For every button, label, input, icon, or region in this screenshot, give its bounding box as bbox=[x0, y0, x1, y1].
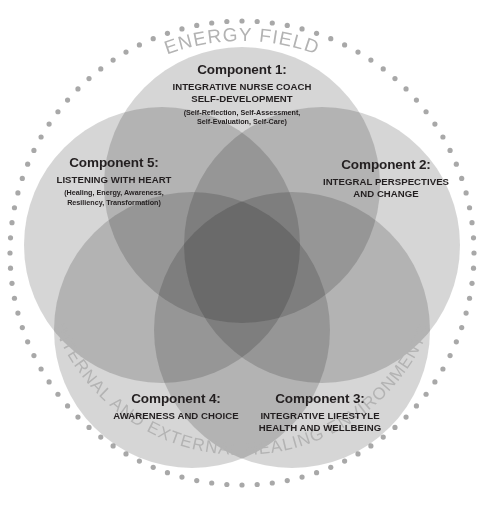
component-2-label: Component 2: INTEGRAL PERSPECTIVES AND C… bbox=[296, 157, 476, 200]
ring-dot bbox=[98, 66, 103, 71]
ring-dot bbox=[469, 220, 474, 225]
ring-dot bbox=[414, 403, 419, 408]
ring-dot bbox=[447, 353, 452, 358]
ring-dot bbox=[9, 220, 14, 225]
ring-dot bbox=[165, 470, 170, 475]
component-3-subtitle-line-1: INTEGRATIVE LIFESTYLE bbox=[240, 410, 400, 421]
ring-dot bbox=[432, 379, 437, 384]
ring-dot bbox=[209, 480, 214, 485]
ring-dot bbox=[328, 36, 333, 41]
ring-dot bbox=[151, 465, 156, 470]
ring-dot bbox=[179, 474, 184, 479]
ring-dot bbox=[314, 31, 319, 36]
component-1-label: Component 1: INTEGRATIVE NURSE COACH SEL… bbox=[119, 62, 365, 126]
ring-dot bbox=[299, 26, 304, 31]
ring-dot bbox=[38, 366, 43, 371]
component-5-detail-line-1: (Healing, Energy, Awareness, bbox=[28, 188, 200, 197]
ring-dot bbox=[392, 76, 397, 81]
ring-dot bbox=[75, 86, 80, 91]
ring-dot bbox=[47, 379, 52, 384]
ring-dot bbox=[86, 425, 91, 430]
ring-dot bbox=[403, 86, 408, 91]
ring-dot bbox=[111, 58, 116, 63]
component-3-title: Component 3: bbox=[240, 391, 400, 407]
ring-dot bbox=[137, 458, 142, 463]
ring-dot bbox=[381, 66, 386, 71]
ring-dot bbox=[123, 49, 128, 54]
ring-dot bbox=[151, 36, 156, 41]
ring-dot bbox=[270, 480, 275, 485]
component-5-title: Component 5: bbox=[28, 155, 200, 171]
component-1-title: Component 1: bbox=[119, 62, 365, 78]
ring-dot bbox=[471, 250, 476, 255]
ring-dot bbox=[65, 97, 70, 102]
ring-dot bbox=[8, 235, 13, 240]
component-3-label: Component 3: INTEGRATIVE LIFESTYLE HEALT… bbox=[240, 391, 400, 434]
ring-dot bbox=[423, 109, 428, 114]
component-1-detail-line-1: (Self-Reflection, Self-Assessment, bbox=[119, 108, 365, 117]
component-1-detail-line-2: Self-Evaluation, Self-Care) bbox=[119, 117, 365, 126]
component-1-subtitle-line-2: SELF-DEVELOPMENT bbox=[119, 93, 365, 104]
ring-dot bbox=[440, 134, 445, 139]
ring-dot bbox=[403, 414, 408, 419]
ring-dot bbox=[98, 434, 103, 439]
ring-dot bbox=[471, 266, 476, 271]
ring-dot bbox=[342, 42, 347, 47]
component-1-subtitle-line-1: INTEGRATIVE NURSE COACH bbox=[119, 81, 365, 92]
ring-dot bbox=[342, 458, 347, 463]
ring-dot bbox=[8, 266, 13, 271]
ring-dot bbox=[12, 296, 17, 301]
ring-dot bbox=[7, 250, 12, 255]
ring-dot bbox=[414, 97, 419, 102]
ring-dot bbox=[454, 339, 459, 344]
ring-dot bbox=[15, 190, 20, 195]
ring-dot bbox=[194, 478, 199, 483]
ring-dot bbox=[31, 353, 36, 358]
ring-dot bbox=[20, 176, 25, 181]
ring-dot bbox=[467, 205, 472, 210]
component-2-subtitle-line-2: AND CHANGE bbox=[296, 188, 476, 199]
ring-dot bbox=[355, 49, 360, 54]
component-5-label: Component 5: LISTENING WITH HEART (Heali… bbox=[28, 155, 200, 207]
ring-dot bbox=[75, 414, 80, 419]
ring-dot bbox=[224, 482, 229, 487]
ring-dot bbox=[423, 392, 428, 397]
component-5-detail-line-2: Resiliency, Transformation) bbox=[28, 198, 200, 207]
ring-dot bbox=[440, 366, 445, 371]
ring-dot bbox=[459, 325, 464, 330]
ring-dot bbox=[224, 19, 229, 24]
ring-dot bbox=[469, 281, 474, 286]
ring-dot bbox=[447, 148, 452, 153]
ring-dot bbox=[137, 42, 142, 47]
ring-dot bbox=[65, 403, 70, 408]
ring-dot bbox=[285, 23, 290, 28]
ring-dot bbox=[471, 235, 476, 240]
ring-dot bbox=[381, 434, 386, 439]
ring-dot bbox=[20, 325, 25, 330]
component-4-label: Component 4: AWARENESS AND CHOICE bbox=[96, 391, 256, 421]
component-2-title: Component 2: bbox=[296, 157, 476, 173]
ring-dot bbox=[165, 31, 170, 36]
ring-dot bbox=[12, 205, 17, 210]
ring-dot bbox=[463, 310, 468, 315]
diagram-canvas: ENERGY FIELD INTERNAL AND EXTERNAL HEALI… bbox=[0, 0, 485, 507]
ring-dot bbox=[432, 122, 437, 127]
ring-dot bbox=[255, 19, 260, 24]
ring-dot bbox=[55, 109, 60, 114]
ring-dot bbox=[86, 76, 91, 81]
ring-dot bbox=[55, 392, 60, 397]
component-5-subtitle-line-1: LISTENING WITH HEART bbox=[28, 174, 200, 185]
ring-dot bbox=[47, 122, 52, 127]
ring-dot bbox=[15, 310, 20, 315]
ring-dot bbox=[179, 26, 184, 31]
ring-dot bbox=[25, 339, 30, 344]
ring-dot bbox=[270, 20, 275, 25]
ring-dot bbox=[368, 58, 373, 63]
ring-dot bbox=[285, 478, 290, 483]
ring-dot bbox=[209, 20, 214, 25]
ring-dot bbox=[255, 482, 260, 487]
ring-dot bbox=[314, 470, 319, 475]
ring-dot bbox=[9, 281, 14, 286]
component-2-subtitle-line-1: INTEGRAL PERSPECTIVES bbox=[296, 176, 476, 187]
component-4-subtitle-line-1: AWARENESS AND CHOICE bbox=[96, 410, 256, 421]
